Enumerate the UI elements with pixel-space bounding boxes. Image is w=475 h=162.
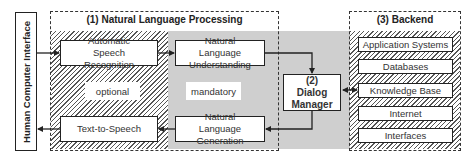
connector-arrows bbox=[0, 0, 475, 162]
